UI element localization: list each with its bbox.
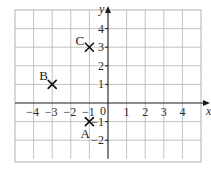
y-tick-label: 4 xyxy=(98,22,104,36)
x-tick-label: −4 xyxy=(26,105,39,119)
point-c: C xyxy=(75,33,93,51)
y-tick-label: 3 xyxy=(98,40,104,54)
point-b: B xyxy=(39,68,56,88)
x-tick-label: −2 xyxy=(63,105,76,119)
x-tick-label: −3 xyxy=(45,105,58,119)
coordinate-grid: xy0−4−3−2−112344321−1−2 ABC xyxy=(0,0,211,177)
x-tick-label: 4 xyxy=(179,105,185,119)
point-label: B xyxy=(39,68,48,83)
y-tick-label: 1 xyxy=(98,77,104,91)
x-tick-label: 1 xyxy=(124,105,130,119)
y-axis-label: y xyxy=(98,2,105,16)
point-label: A xyxy=(80,126,90,141)
x-tick-label: 2 xyxy=(142,105,148,119)
y-tick-label: 2 xyxy=(98,59,104,73)
x-tick-label: 3 xyxy=(161,105,167,119)
plotted-points: ABC xyxy=(39,33,93,140)
y-tick-label: −1 xyxy=(91,115,104,129)
tick-labels: xy0−4−3−2−112344321−1−2 xyxy=(26,2,211,147)
point-label: C xyxy=(75,33,84,48)
y-tick-label: −2 xyxy=(91,133,104,147)
x-axis-label: x xyxy=(205,104,211,118)
y-axis-arrow-icon xyxy=(105,6,111,13)
